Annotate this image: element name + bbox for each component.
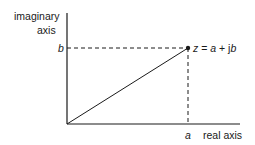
point-label-b: b [230, 42, 236, 54]
imaginary-axis-label-line2: axis [37, 24, 56, 36]
point-z [186, 46, 190, 50]
point-label: z = a + jb [193, 42, 236, 54]
imaginary-axis-label-line1: imaginary [14, 10, 60, 22]
vector-line [67, 48, 188, 124]
a-label: a [185, 129, 191, 141]
point-label-plus: + j [216, 42, 230, 54]
real-axis-label: real axis [203, 129, 242, 141]
b-label: b [58, 42, 64, 54]
point-label-eq: = [198, 42, 210, 54]
